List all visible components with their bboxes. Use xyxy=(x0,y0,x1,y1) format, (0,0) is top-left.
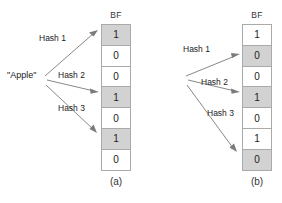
hash-label-3: Hash 3 xyxy=(207,108,234,118)
bloom-filter-bit-vector-a: 1 0 0 1 0 1 0 xyxy=(101,24,131,171)
bf-header-label: BF xyxy=(101,10,131,20)
bf-cell: 0 xyxy=(243,46,271,67)
bf-cell: 0 xyxy=(102,108,130,129)
panel-b: "Orange" Hash 1 Hash 2 Hash 3 BF 1 0 0 1… xyxy=(141,0,282,203)
bf-cell: 0 xyxy=(243,67,271,88)
hash-label-1: Hash 1 xyxy=(183,44,210,54)
bf-cell: 1 xyxy=(102,87,130,108)
bf-cell: 1 xyxy=(243,87,271,108)
bf-cell: 0 xyxy=(243,150,271,171)
hash-label-2: Hash 2 xyxy=(58,70,85,80)
bloom-filter-diagram: "Apple" Hash 1 Hash 2 Hash 3 BF 1 0 0 1 … xyxy=(0,0,282,203)
panel-a: "Apple" Hash 1 Hash 2 Hash 3 BF 1 0 0 1 … xyxy=(0,0,141,203)
panel-caption-a: (a) xyxy=(96,176,136,187)
bf-cell: 0 xyxy=(243,108,271,129)
bf-cell: 1 xyxy=(243,129,271,150)
hash-label-2: Hash 2 xyxy=(201,77,228,87)
bf-cell: 1 xyxy=(243,25,271,46)
bf-cell: 1 xyxy=(102,25,130,46)
bf-cell: 1 xyxy=(102,129,130,150)
term-label-apple: "Apple" xyxy=(7,70,36,80)
panel-caption-b: (b) xyxy=(237,176,277,187)
bf-cell: 0 xyxy=(102,46,130,67)
hash-label-3: Hash 3 xyxy=(58,103,85,113)
bf-cell: 0 xyxy=(102,150,130,171)
hash-label-1: Hash 1 xyxy=(39,33,66,43)
bloom-filter-bit-vector-b: 1 0 0 1 0 1 0 xyxy=(242,24,272,171)
bf-cell: 0 xyxy=(102,67,130,88)
bf-header-label: BF xyxy=(242,10,272,20)
